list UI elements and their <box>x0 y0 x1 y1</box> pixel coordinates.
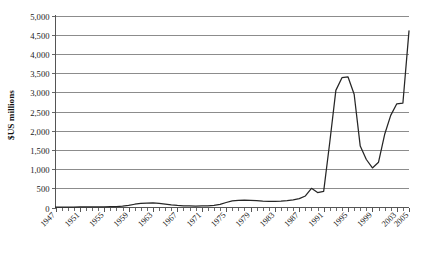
x-tick-label: 2005 <box>392 211 410 229</box>
y-axis: 5,0004,5004,0003,5003,0002,5002,0001,500… <box>30 12 409 214</box>
y-tick-label: 2,500 <box>30 108 49 118</box>
x-axis-ticks <box>57 208 410 213</box>
x-tick-label: 1959 <box>112 211 130 229</box>
x-tick-label: 1967 <box>161 211 179 229</box>
x-tick-label: 1951 <box>63 211 81 229</box>
x-tick-label: 1971 <box>185 211 203 229</box>
x-tick-label: 1995 <box>331 211 349 229</box>
y-tick-label: 5,000 <box>30 12 49 22</box>
y-tick-label: 4,000 <box>30 50 49 60</box>
y-tick-label: 2,000 <box>30 127 49 137</box>
x-tick-label: 1963 <box>136 211 154 229</box>
y-tick-label: 1,000 <box>30 165 49 175</box>
y-tick-label: 4,500 <box>30 31 49 41</box>
x-tick-label: 1999 <box>356 211 374 229</box>
y-axis-title: $US millions <box>6 90 16 140</box>
chart-container: $US millions 5,0004,5004,0003,5003,0002,… <box>0 0 423 262</box>
x-axis-labels: 1947195119551959196319671971197519791983… <box>39 211 411 229</box>
x-tick-label: 1991 <box>307 211 325 229</box>
y-tick-label: 3,500 <box>30 69 49 79</box>
line-chart: $US millions 5,0004,5004,0003,5003,0002,… <box>0 0 423 262</box>
x-tick-label: 1983 <box>258 211 276 229</box>
x-tick-label: 1987 <box>282 211 300 229</box>
y-tick-label: 500 <box>37 184 50 194</box>
y-axis-title-text: $US millions <box>6 90 16 140</box>
x-tick-label: 1955 <box>87 211 105 229</box>
y-tick-label: 3,000 <box>30 88 49 98</box>
y-tick-label: 1,500 <box>30 146 49 156</box>
x-tick-label: 1947 <box>39 211 57 229</box>
x-tick-label: 1979 <box>234 211 252 229</box>
data-series-line <box>56 31 410 207</box>
x-tick-label: 1975 <box>209 211 227 229</box>
